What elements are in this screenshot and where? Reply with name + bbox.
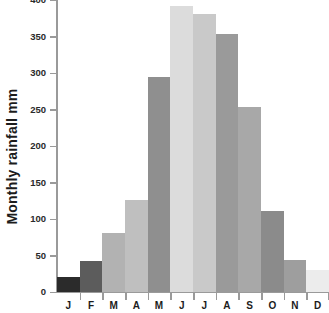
x-tick-separator [125,293,127,300]
y-tick-mark [50,182,57,184]
x-axis-label-july: J [193,299,216,313]
bar-september [238,107,261,292]
x-tick-separator [261,293,263,300]
bar-february [80,261,103,292]
x-tick-separator [238,293,240,300]
x-tick-separator [148,293,150,300]
x-axis-label-march: M [102,299,125,313]
x-tick-separator [306,293,308,300]
y-tick-mark [50,146,57,148]
bar-july [193,14,216,292]
x-tick-separator [284,293,286,300]
y-tick-mark [50,219,57,221]
y-tick-label: 200 [30,139,46,152]
y-tick-label: 100 [30,212,46,225]
plot-area [57,0,329,292]
x-tick-separator [193,293,195,300]
bar-april [125,200,148,292]
y-tick-label: 150 [30,176,46,189]
y-tick-label: 250 [30,103,46,116]
y-tick-label: 0 [41,285,46,298]
bar-june [170,6,193,292]
x-axis-label-december: D [306,299,329,313]
y-tick-mark [50,109,57,111]
monthly-rainfall-bar-chart: Monthly rainfall mm 05010015020025030035… [0,0,329,313]
y-tick-label: 350 [30,30,46,43]
x-tick-separator [102,293,104,300]
y-tick-mark [50,73,57,75]
bar-december [306,270,329,292]
x-axis-label-february: F [80,299,103,313]
y-tick-label: 50 [35,249,46,262]
x-axis-label-may: M [148,299,171,313]
x-axis-label-january: J [57,299,80,313]
y-tick-label: 300 [30,66,46,79]
x-axis-label-october: O [261,299,284,313]
bar-august [216,34,239,292]
y-tick-label: 400 [30,0,46,6]
bar-october [261,211,284,292]
x-tick-separator [216,293,218,300]
x-axis-label-june: J [170,299,193,313]
x-axis-label-november: N [284,299,307,313]
y-tick-mark [50,0,57,1]
bar-january [57,277,80,292]
y-tick-mark [50,292,57,294]
x-tick-separator [170,293,172,300]
y-axis-title: Monthly rainfall mm [0,0,24,313]
bar-november [284,260,307,292]
bar-march [102,233,125,292]
x-axis-label-august: A [216,299,239,313]
y-tick-mark [50,36,57,38]
x-tick-separator [80,293,82,300]
bar-may [148,77,171,292]
y-tick-mark [50,255,57,257]
x-axis-label-september: S [238,299,261,313]
x-axis-label-april: A [125,299,148,313]
x-axis-labels: JFMAMJJASOND [57,293,329,313]
